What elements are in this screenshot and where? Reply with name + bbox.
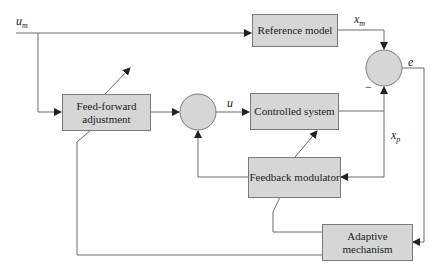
xp-to-feedback-line: [341, 111, 384, 177]
feedback-adjust-arrow: [295, 131, 317, 157]
um-to-feedforward-line: [38, 33, 61, 112]
feedback-modulator-label: Feedback modulator: [249, 171, 339, 184]
xp-line: [338, 87, 384, 111]
error-signal-label: e: [408, 55, 413, 70]
input-signal-label: um: [16, 14, 28, 30]
control-signal-label: u: [227, 96, 233, 111]
error-to-adaptive-line: [402, 68, 424, 242]
controlled-system-label: Controlled system: [254, 105, 334, 118]
feedforward-adjust-arrow: [105, 68, 130, 94]
adaptive-mechanism-block: Adaptive mechanism: [322, 224, 413, 261]
controlled-system-block: Controlled system: [250, 93, 339, 130]
plant-output-label: xp: [391, 128, 400, 144]
reference-model-block: Reference model: [252, 14, 338, 47]
feedback-to-sum-line: [198, 131, 248, 177]
controller-sum-junction: [180, 94, 216, 130]
xm-line: [337, 30, 384, 49]
feedback-modulator-block: Feedback modulator: [248, 157, 341, 198]
adaptive-to-feedback-line: [273, 197, 322, 232]
model-output-label: xm: [354, 12, 365, 28]
minus-sign: −: [365, 80, 372, 95]
feed-forward-block: Feed-forward adjustment: [62, 94, 151, 131]
reference-model-label: Reference model: [258, 24, 333, 37]
adaptive-mechanism-label: Adaptive mechanism: [337, 230, 398, 256]
feed-forward-label: Feed-forward adjustment: [63, 100, 150, 126]
